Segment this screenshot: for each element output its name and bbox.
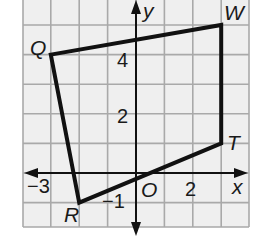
vertex-label-W: W (224, 1, 246, 24)
vertex-label-T: T (227, 131, 242, 154)
y-tick-label-neg1: −1 (102, 190, 125, 212)
y-tick-label-2: 2 (117, 105, 128, 127)
origin-label: O (141, 178, 157, 201)
vertex-label-Q: Q (30, 36, 46, 59)
vertex-label-R: R (64, 203, 79, 226)
x-tick-label-2: 2 (185, 178, 196, 200)
graph-svg: y x O −3 2 4 2 −1 Q W T R (0, 0, 262, 252)
coordinate-plane-figure: y x O −3 2 4 2 −1 Q W T R (0, 0, 262, 252)
y-axis-arrow-down-icon (131, 222, 141, 236)
x-axis-label: x (231, 175, 244, 198)
y-axis-label: y (141, 0, 155, 22)
y-tick-label-4: 4 (117, 49, 128, 71)
x-tick-label-neg3: −3 (27, 175, 50, 197)
